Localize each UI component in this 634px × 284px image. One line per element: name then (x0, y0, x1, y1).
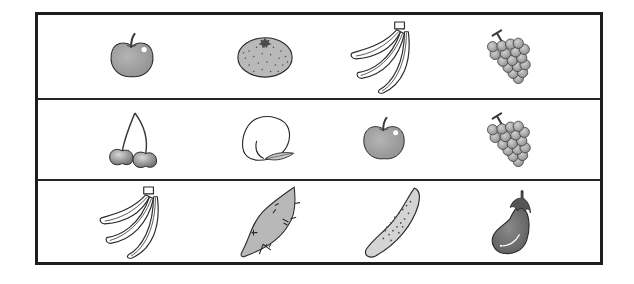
cell-banana[interactable]: banana (96, 181, 172, 262)
cell-cucumber[interactable]: cucumber (358, 181, 428, 262)
worksheet-grid: apple mandarin orange banana grapes cher… (35, 12, 603, 265)
cucumber-icon (362, 184, 424, 260)
eggplant-icon (490, 186, 534, 258)
grapes-icon (484, 25, 532, 89)
cell-apple[interactable]: apple (100, 15, 164, 98)
peach-icon (239, 114, 299, 166)
cell-grapes[interactable]: grapes (476, 100, 540, 179)
row-2: cherries peach apple grapes (38, 100, 600, 179)
cell-eggplant[interactable]: eggplant (484, 181, 540, 262)
banana-icon (99, 185, 169, 259)
apple-icon (359, 116, 409, 163)
cell-sweet-potato[interactable]: sweet potato (234, 181, 304, 262)
cell-banana[interactable]: banana (347, 15, 423, 98)
apple-icon (106, 32, 158, 81)
cell-cherries[interactable]: cherries (102, 100, 166, 179)
cell-grapes[interactable]: grapes (476, 15, 540, 98)
cell-peach[interactable]: peach (234, 100, 304, 179)
orange-icon (236, 34, 294, 79)
grapes-icon (484, 108, 532, 172)
cell-mandarin-orange[interactable]: mandarin orange (230, 15, 300, 98)
cherries-icon (107, 110, 161, 170)
sweet-potato-icon (238, 184, 300, 260)
row-3: banana sweet potato cucumber eggplant (38, 181, 600, 262)
cell-apple[interactable]: apple (352, 100, 416, 179)
row-1: apple mandarin orange banana grapes (38, 15, 600, 98)
banana-icon (350, 20, 420, 94)
